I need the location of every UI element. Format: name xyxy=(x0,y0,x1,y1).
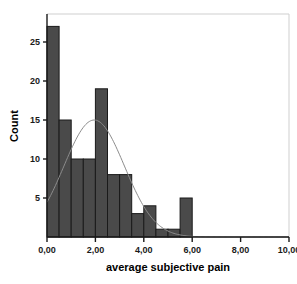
x-tick-label: 2,00 xyxy=(87,245,105,255)
x-axis-title: average subjective pain xyxy=(106,261,230,273)
x-tick-label: 4,00 xyxy=(135,245,153,255)
x-tick-label: 0,00 xyxy=(38,245,56,255)
y-tick-label: 25 xyxy=(30,37,40,47)
y-tick-label: 5 xyxy=(35,193,40,203)
histogram-bar xyxy=(83,159,95,237)
histogram-bar xyxy=(71,159,83,237)
y-tick-label: 10 xyxy=(30,154,40,164)
histogram-bar xyxy=(144,206,156,237)
x-tick-label: 6,00 xyxy=(183,245,201,255)
histogram-bar xyxy=(120,175,132,237)
y-tick-label: 15 xyxy=(30,115,40,125)
chart-canvas: 510152025 0,002,004,006,008,0010,00 Coun… xyxy=(0,0,297,284)
y-axis-title: Count xyxy=(8,110,20,142)
histogram-bar xyxy=(59,120,71,237)
histogram-bar xyxy=(108,175,120,237)
x-tick-label: 8,00 xyxy=(232,245,250,255)
y-tick-label: 20 xyxy=(30,76,40,86)
histogram-bar xyxy=(95,89,107,237)
histogram-bar xyxy=(132,214,144,237)
histogram-chart: 510152025 0,002,004,006,008,0010,00 Coun… xyxy=(0,0,297,284)
histogram-bar xyxy=(180,198,192,237)
x-tick-label: 10,00 xyxy=(278,245,297,255)
histogram-bar xyxy=(47,26,59,237)
